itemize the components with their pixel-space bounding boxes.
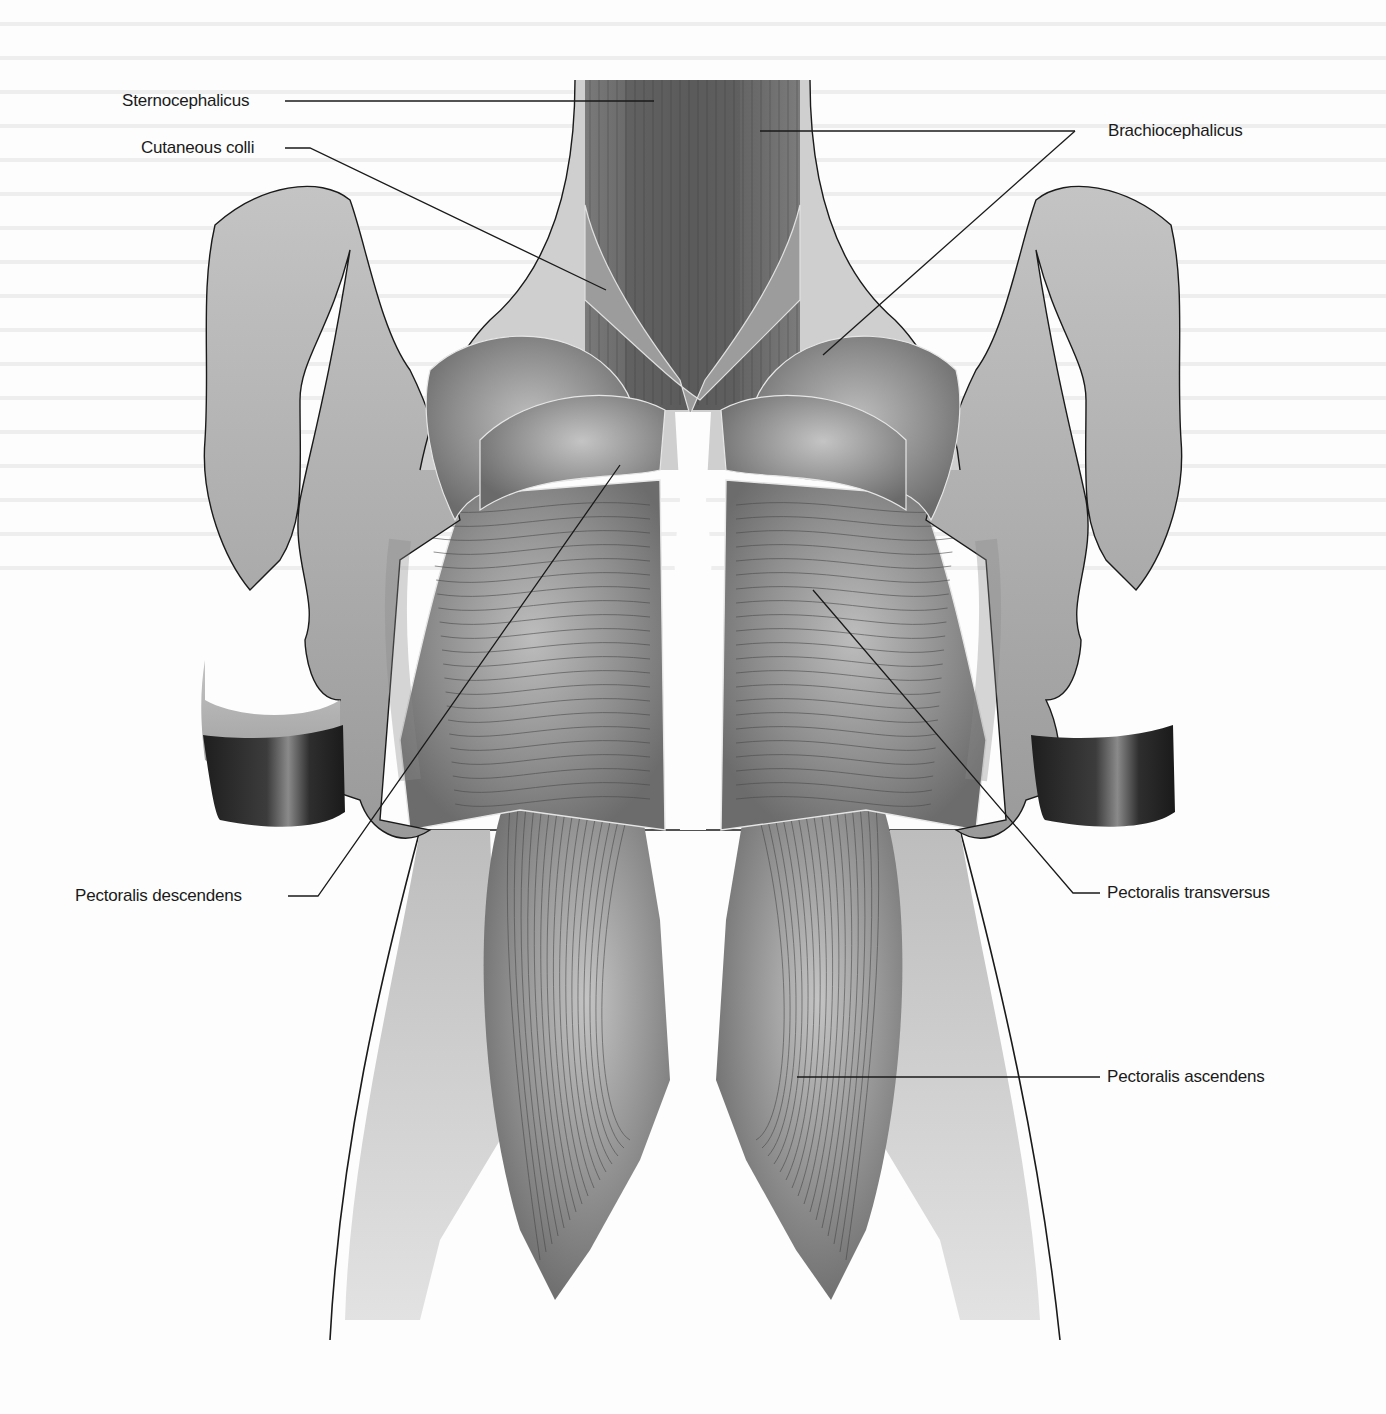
pectoralis-ascendens [484, 800, 903, 1300]
left-hoof [203, 725, 345, 827]
anatomy-illustration [0, 0, 1386, 1414]
label-brachiocephalicus: Brachiocephalicus [1108, 121, 1243, 141]
label-pectoralis-descendens: Pectoralis descendens [75, 886, 242, 906]
midline-gap [674, 412, 712, 830]
lateral-fascia [345, 830, 1040, 1320]
sternocephalicus [585, 80, 800, 410]
label-cutaneous-colli: Cutaneous colli [141, 138, 254, 158]
label-sternocephalicus: Sternocephalicus [122, 91, 249, 111]
right-hoof [1031, 725, 1175, 827]
label-pectoralis-transversus: Pectoralis transversus [1107, 883, 1270, 903]
label-pectoralis-ascendens: Pectoralis ascendens [1107, 1067, 1265, 1087]
